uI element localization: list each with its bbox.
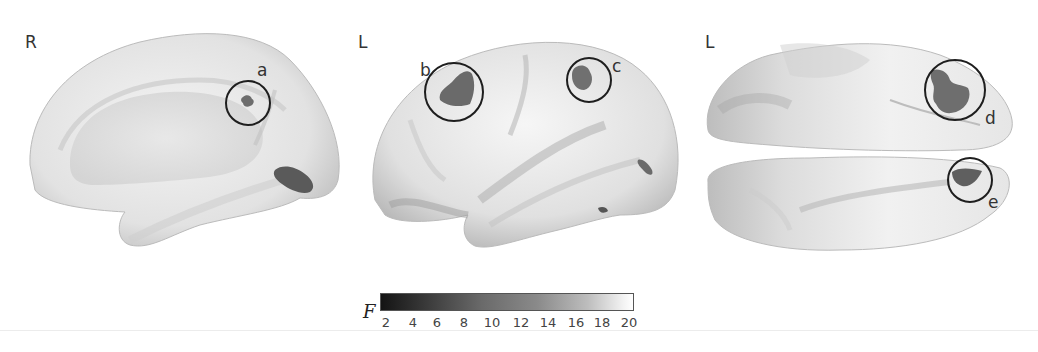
colorbar-tick: 14 (540, 315, 557, 330)
colorbar-tick: 20 (621, 315, 638, 330)
brain-ventral-illustration (690, 0, 1038, 290)
panel-right-medial: R a (0, 0, 350, 290)
colorbar-label: F (363, 301, 376, 322)
colorbar-tick: 12 (513, 315, 530, 330)
colorbar-tick: 6 (433, 315, 441, 330)
panel-left-ventral: L d e (690, 0, 1038, 290)
colorbar-gradient (380, 293, 634, 311)
region-label-b: b (420, 60, 431, 80)
region-label-e: e (988, 192, 998, 212)
brain-medial-illustration (0, 0, 350, 290)
region-label-a: a (257, 60, 267, 80)
colorbar-tick: 18 (594, 315, 611, 330)
brain-lateral-illustration (350, 0, 690, 290)
colorbar-tick: 10 (484, 315, 501, 330)
region-label-d: d (985, 108, 996, 128)
colorbar-ticks: 2 4 6 8 10 12 14 16 18 20 (380, 315, 640, 333)
colorbar-tick: 4 (409, 315, 417, 330)
colorbar-tick: 16 (568, 315, 585, 330)
colorbar-tick: 8 (460, 315, 468, 330)
colorbar-tick: 2 (382, 315, 390, 330)
region-label-c: c (612, 56, 621, 76)
panel-left-lateral: L b c (350, 0, 690, 290)
